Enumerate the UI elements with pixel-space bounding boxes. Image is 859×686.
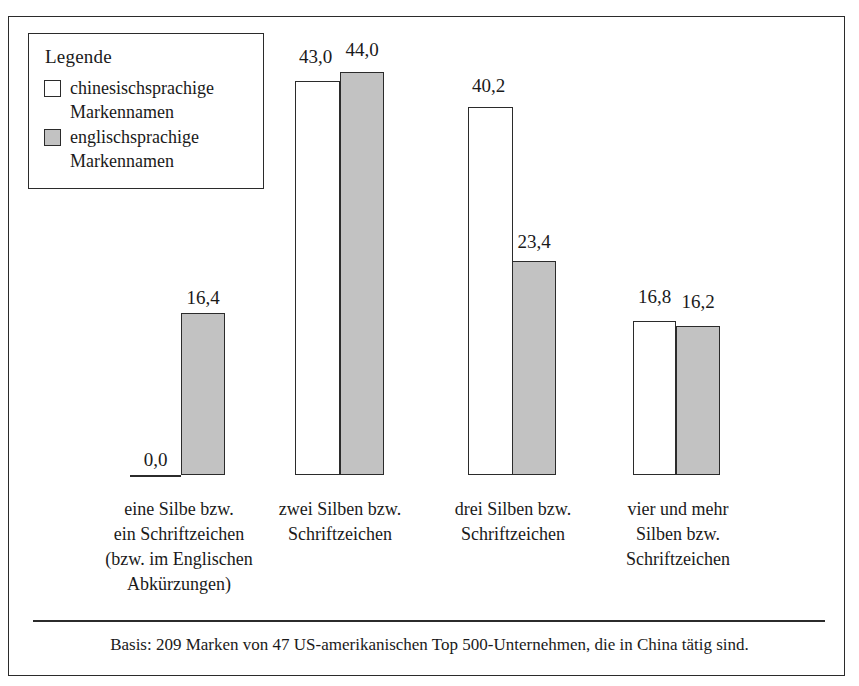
bar-value-g4-gray: 16,2 — [676, 292, 720, 312]
category-label-2-line2: Schriftzeichen — [248, 522, 432, 547]
category-label-3-line1: drei Silben bzw. — [425, 497, 601, 522]
category-label-4-line1: vier und mehr — [596, 497, 760, 522]
basis-note: Basis: 209 Marken von 47 US-amerikanisch… — [0, 634, 859, 656]
bar-g1-gray — [181, 313, 225, 475]
category-label-1: eine Silbe bzw. ein Schriftzeichen (bzw.… — [83, 497, 275, 597]
category-label-2: zwei Silben bzw. Schriftzeichen — [248, 497, 432, 547]
chart-figure: Legende chinesischsprachige Markennamen … — [0, 0, 859, 686]
bar-value-g2-gray: 44,0 — [340, 40, 384, 60]
category-label-1-line4: Abkürzungen) — [83, 572, 275, 597]
category-label-4-line2: Silben bzw. — [596, 522, 760, 547]
bar-g3-gray — [512, 261, 556, 475]
bar-value-g4-white: 16,8 — [629, 287, 680, 307]
bar-value-g3-gray: 23,4 — [512, 232, 556, 252]
category-label-4-line3: Schriftzeichen — [596, 547, 760, 572]
bar-value-g3-white: 40,2 — [463, 76, 514, 96]
bar-g4-white — [633, 321, 676, 475]
category-label-3: drei Silben bzw. Schriftzeichen — [425, 497, 601, 547]
category-label-2-line1: zwei Silben bzw. — [248, 497, 432, 522]
bar-value-g1-white: 0,0 — [130, 450, 181, 470]
category-label-1-line1: eine Silbe bzw. — [83, 497, 275, 522]
bar-g3-white — [468, 107, 513, 475]
category-label-1-line3: (bzw. im Englischen — [83, 547, 275, 572]
bar-g2-white — [295, 81, 340, 475]
category-label-3-line2: Schriftzeichen — [425, 522, 601, 547]
bar-g1-white — [130, 475, 181, 477]
bar-g2-gray — [340, 72, 384, 475]
footer-divider — [33, 620, 825, 622]
bar-g4-gray — [676, 326, 720, 475]
bar-value-g1-gray: 16,4 — [181, 288, 225, 308]
category-label-4: vier und mehr Silben bzw. Schriftzeichen — [596, 497, 760, 572]
bar-value-g2-white: 43,0 — [290, 47, 341, 67]
category-label-1-line2: ein Schriftzeichen — [83, 522, 275, 547]
plot-area: 0,0 16,4 43,0 44,0 40,2 23,4 16,8 16,2 e… — [0, 0, 859, 686]
